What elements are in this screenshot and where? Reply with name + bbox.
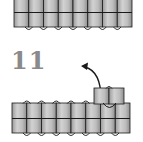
top-stitch-row — [14, 0, 132, 30]
step-number: 11 — [11, 49, 46, 73]
raised-stitch-block — [94, 87, 124, 108]
